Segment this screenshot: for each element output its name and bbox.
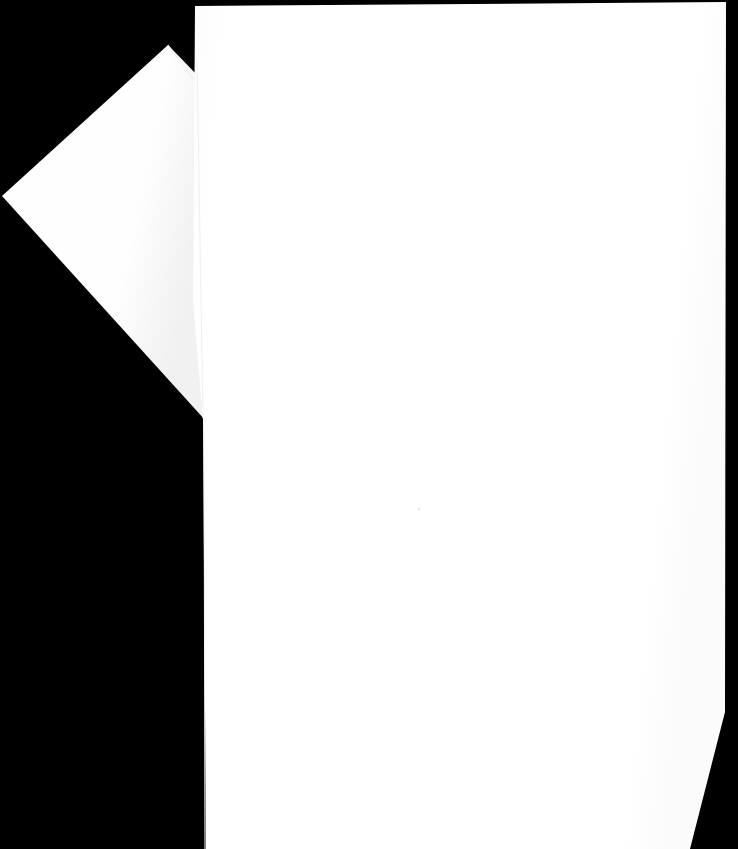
paper-surface-speck — [418, 508, 421, 511]
document-scan-canvas: Two blank white sheets of paper photogra… — [0, 0, 738, 849]
front-paper-sheet — [193, 2, 726, 849]
paper-sheets-illustration — [0, 0, 738, 849]
